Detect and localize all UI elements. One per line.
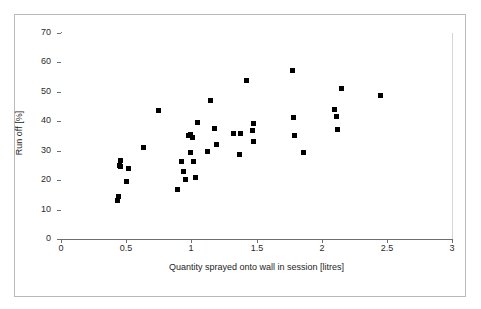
scatter-point [334, 114, 339, 119]
scatter-point [378, 93, 383, 98]
scatter-point [118, 158, 123, 163]
y-tick-label: 0 [21, 234, 51, 243]
scatter-point [179, 159, 184, 164]
scatter-point [175, 187, 180, 192]
scatter-point [251, 139, 256, 144]
y-tick-label: 10 [21, 205, 51, 214]
scatter-point [141, 145, 146, 150]
scatter-point [332, 107, 337, 112]
scatter-point [301, 150, 306, 155]
scatter-point [183, 177, 188, 182]
x-tick-label: 1 [176, 244, 206, 253]
y-tick-label: 30 [21, 146, 51, 155]
x-tick-label: 1.5 [242, 244, 272, 253]
y-axis-title: Run off [%] [14, 83, 24, 183]
x-tick-label: 2.5 [372, 244, 402, 253]
scatter-point [250, 128, 255, 133]
y-tick-label: 40 [21, 116, 51, 125]
scatter-point [244, 78, 249, 83]
scatter-point [214, 142, 219, 147]
scatter-point [188, 150, 193, 155]
scatter-point [156, 108, 161, 113]
x-tick-label: 0 [46, 244, 76, 253]
x-axis-title: Quantity sprayed onto wall in session [l… [61, 262, 452, 272]
scatter-point [193, 175, 198, 180]
scatter-point [238, 131, 243, 136]
x-tick-label: 3 [437, 244, 467, 253]
scatter-point [190, 135, 195, 140]
scatter-point [212, 126, 217, 131]
scatter-point [191, 159, 196, 164]
scatter-point [251, 121, 256, 126]
scatter-plot-area [61, 33, 452, 239]
scatter-point [231, 131, 236, 136]
scatter-point [181, 169, 186, 174]
x-tick-label: 0.5 [111, 244, 141, 253]
scatter-point [335, 127, 340, 132]
y-tick-label: 20 [21, 175, 51, 184]
y-tick-label: 60 [21, 57, 51, 66]
scatter-point [205, 149, 210, 154]
scatter-point [195, 120, 200, 125]
scatter-point [291, 115, 296, 120]
scatter-point [208, 98, 213, 103]
scatter-point [124, 179, 129, 184]
x-tick-label: 2 [307, 244, 337, 253]
scatter-point [126, 166, 131, 171]
scatter-point [116, 194, 121, 199]
plot-right-border [452, 33, 453, 239]
y-tick-label: 50 [21, 87, 51, 96]
scatter-point [290, 68, 295, 73]
scatter-point [118, 164, 123, 169]
scatter-point [339, 86, 344, 91]
scatter-point [292, 133, 297, 138]
y-tick-label: 70 [21, 28, 51, 37]
scatter-point [237, 152, 242, 157]
